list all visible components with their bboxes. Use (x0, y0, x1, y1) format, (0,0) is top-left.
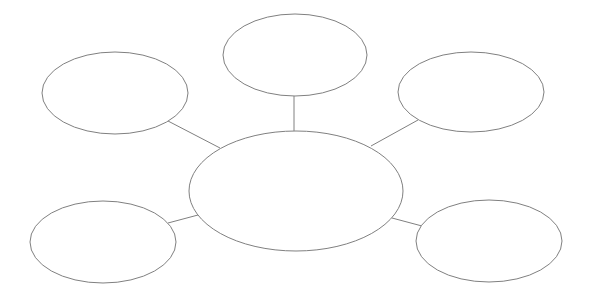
ellipse-top-center[interactable] (223, 14, 367, 96)
diagram-nodes (30, 14, 562, 283)
connector-bottom-right (392, 218, 422, 226)
ellipse-center[interactable] (189, 131, 403, 251)
node-bottom-left[interactable] (30, 201, 176, 283)
node-bottom-right[interactable] (416, 200, 562, 282)
ellipse-top-left[interactable] (42, 52, 188, 134)
node-top-left[interactable] (42, 52, 188, 134)
node-top-center[interactable] (223, 14, 367, 96)
node-center[interactable] (189, 131, 403, 251)
ellipse-bottom-left[interactable] (30, 201, 176, 283)
ellipse-top-right[interactable] (398, 52, 544, 132)
connector-top-left (168, 121, 220, 148)
ellipse-bottom-right[interactable] (416, 200, 562, 282)
node-top-right[interactable] (398, 52, 544, 132)
connector-top-right (371, 120, 418, 146)
connector-bottom-left (168, 215, 198, 223)
spider-diagram (0, 0, 592, 302)
